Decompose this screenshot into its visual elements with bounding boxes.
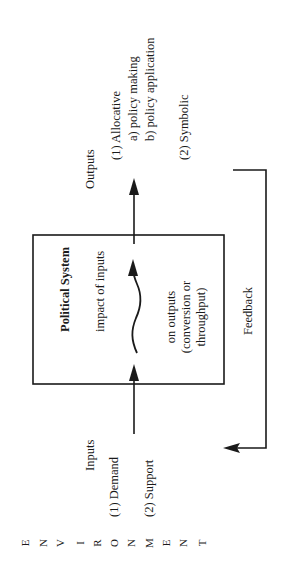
env-letter: I [74,541,86,545]
input-arrow-icon [129,364,139,434]
system-on-outputs-text: on outputs [164,291,178,344]
env-letter: R [91,539,103,547]
env-letter: T [196,539,208,546]
system-title: Political System [58,246,72,332]
system-impact-text: impact of inputs [93,251,107,332]
output-symbolic: (2) Symbolic [177,94,191,160]
input-support: (2) Support [142,459,156,517]
conversion-arrow-icon [128,259,141,353]
input-demand: (1) Demand [107,456,121,517]
output-policy-making: a) policy making [126,56,140,141]
output-allocative: (1) Allocative [109,90,123,160]
env-letter: N [37,539,49,547]
env-letter: E [160,539,172,546]
env-letter: N [125,539,137,547]
outputs-title: Outputs [83,149,97,189]
system-throughput-text: throughput) [194,287,208,346]
env-letter: M [143,538,155,548]
inputs-title: Inputs [83,440,97,471]
system-conversion-text: (conversion or [179,280,193,353]
env-letter: N [177,539,189,547]
env-letter: O [108,539,120,547]
political-system-diagram: Political System impact of inputs on out… [0,0,282,573]
env-letter: E [19,539,31,546]
output-policy-application: b) policy application [143,37,157,141]
env-letter: V [54,539,66,547]
feedback-label: Feedback [241,286,255,335]
output-arrow-icon [129,178,139,244]
environment-label: E N V I R O N M E N T [19,538,208,548]
